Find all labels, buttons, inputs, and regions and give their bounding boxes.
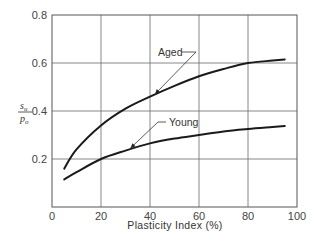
y-tick-label: 0.4 [32,105,47,117]
y-label-denominator: po [19,113,29,126]
series-young-curve [64,126,285,179]
chart: 020406080100 0.20.40.60.8 AgedYoung Plas… [0,0,316,246]
y-tick-label: 0.2 [32,153,47,165]
y-label-numerator: su [20,100,28,113]
annotation-aged-label: Aged [158,46,183,58]
annotation-young-label: Young [169,116,199,128]
y-tick-label: 0.8 [32,9,47,21]
x-tick-label: 0 [49,210,55,222]
y-axis-label: su po [18,100,32,126]
series-annotations: AgedYoung [130,46,198,148]
grid-lines [52,15,297,207]
x-tick-label: 100 [288,210,306,222]
annotation-leader-line [155,52,196,94]
x-tick-label: 80 [242,210,254,222]
x-tick-label: 20 [95,210,107,222]
series-aged-curve [64,59,285,168]
y-axis-ticks: 0.20.40.60.8 [32,9,47,165]
y-tick-label: 0.6 [32,57,47,69]
x-axis-label: Plasticity Index (%) [127,219,222,231]
